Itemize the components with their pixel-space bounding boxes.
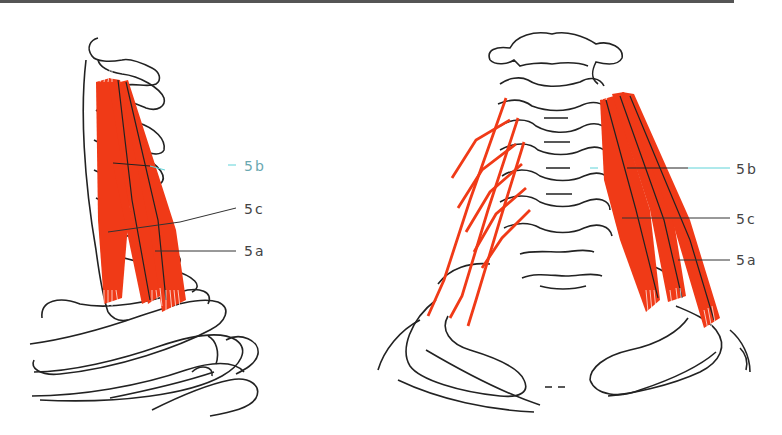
label-5a-right: 5a: [736, 252, 758, 268]
right-view-left-scalenes: [428, 98, 530, 326]
right-spine: [489, 33, 622, 278]
right-view-right-scalenes: [600, 90, 720, 330]
label-5a-left: 5a: [244, 243, 266, 259]
label-5c-right: 5c: [736, 211, 757, 227]
left-ribs: [30, 290, 258, 416]
label-5b-left: 5b: [244, 158, 266, 174]
label-5c-left: 5c: [244, 201, 265, 217]
anatomy-illustration: [0, 0, 782, 435]
label-5b-right: 5b: [736, 161, 758, 177]
